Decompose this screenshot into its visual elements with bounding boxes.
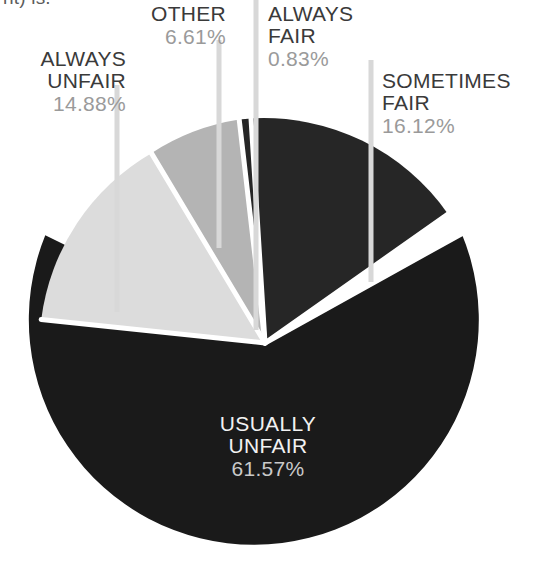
label-always-fair-line1: ALWAYS	[268, 3, 380, 25]
chart-canvas: nt) is.	[0, 0, 551, 584]
label-sometimes-fair-line1: SOMETIMES	[382, 70, 546, 92]
label-sometimes-fair-line2: FAIR	[382, 92, 546, 114]
label-sometimes-fair-percent: 16.12%	[382, 115, 546, 137]
label-other: OTHER 6.61%	[118, 3, 226, 48]
label-sometimes-fair: SOMETIMES FAIR 16.12%	[382, 70, 546, 137]
label-usually-unfair-line2: UNFAIR	[178, 435, 358, 457]
label-always-unfair: ALWAYS UNFAIR 14.88%	[8, 48, 126, 115]
label-usually-unfair: USUALLY UNFAIR 61.57%	[178, 413, 358, 480]
label-always-unfair-line1: ALWAYS	[8, 48, 126, 70]
label-always-fair: ALWAYS FAIR 0.83%	[268, 3, 380, 70]
label-other-line1: OTHER	[118, 3, 226, 25]
label-always-fair-percent: 0.83%	[268, 48, 380, 70]
label-always-unfair-percent: 14.88%	[8, 93, 126, 115]
label-always-unfair-line2: UNFAIR	[8, 70, 126, 92]
label-other-percent: 6.61%	[118, 26, 226, 48]
label-usually-unfair-percent: 61.57%	[178, 458, 358, 480]
label-always-fair-line2: FAIR	[268, 25, 380, 47]
label-usually-unfair-line1: USUALLY	[178, 413, 358, 435]
